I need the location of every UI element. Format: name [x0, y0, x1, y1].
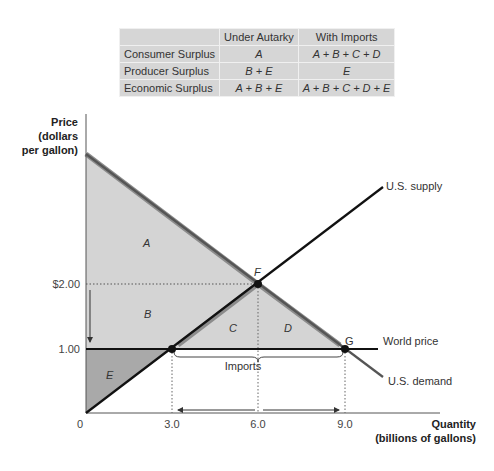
y-axis-label-3: per gallon): [22, 144, 79, 156]
point-domestic-marker: [168, 345, 176, 353]
y-tick-1: 1.00: [59, 343, 80, 355]
point-f-marker: [254, 280, 262, 288]
y-axis-label-1: Price: [51, 116, 78, 128]
x-tick-9: 9.0: [337, 418, 352, 430]
region-e-label: E: [106, 369, 114, 381]
world-price-label: World price: [383, 335, 438, 347]
demand-label: U.S. demand: [388, 375, 452, 387]
supply-label: U.S. supply: [386, 180, 443, 192]
point-f-label: F: [254, 266, 262, 278]
region-a-label: A: [142, 237, 150, 249]
imports-label: Imports: [225, 360, 262, 372]
x-tick-6: 6.0: [250, 418, 265, 430]
region-c-label: C: [229, 322, 237, 334]
y-tick-2: $2.00: [52, 278, 80, 290]
x-axis-label-2: (billions of gallons): [375, 432, 476, 444]
x-axis-label-1: Quantity: [431, 418, 476, 430]
x-tick-3: 3.0: [164, 418, 179, 430]
chart: Price (dollars per gallon) $2.00 1.00 0 …: [0, 0, 494, 471]
point-g-label: G: [345, 335, 354, 347]
x-tick-0: 0: [77, 418, 83, 430]
region-d-label: D: [284, 322, 292, 334]
y-axis-label-2: (dollars: [38, 130, 78, 142]
region-b-label: B: [144, 308, 151, 320]
